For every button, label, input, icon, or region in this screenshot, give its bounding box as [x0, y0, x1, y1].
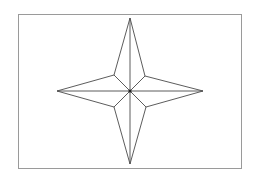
star-diagram	[0, 0, 259, 179]
spoke-upper-right	[130, 76, 145, 91]
spoke-upper-left	[114, 75, 130, 91]
center-point	[128, 89, 131, 92]
spoke-lower-left	[114, 91, 130, 107]
spoke-lower-right	[130, 91, 146, 107]
